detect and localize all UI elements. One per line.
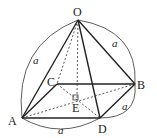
edge-OE (77, 20, 78, 99)
edge-AC (22, 84, 57, 118)
label-O: O (73, 5, 82, 19)
label-E: E (72, 101, 79, 115)
label-edge-BD: a (122, 100, 128, 112)
label-B: B (137, 78, 145, 92)
label-C: C (47, 75, 55, 89)
edge-OB (78, 20, 135, 84)
edge-OD (78, 20, 100, 118)
label-edge-OB: a (112, 37, 118, 49)
label-edge-AD: a (58, 124, 64, 136)
edge-DB (100, 84, 135, 118)
pyramid-diagram: O A B C D E a a a a (0, 0, 157, 138)
label-edge-OA: a (33, 54, 39, 66)
label-A: A (8, 114, 17, 128)
label-D: D (98, 122, 107, 136)
